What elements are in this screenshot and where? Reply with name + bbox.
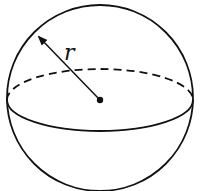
equator-front-solid bbox=[7, 100, 193, 131]
sphere-figure: r bbox=[0, 0, 201, 191]
radius-label: r bbox=[64, 40, 76, 65]
sphere-diagram: r bbox=[0, 0, 201, 191]
equator-back-dashed bbox=[7, 69, 193, 100]
